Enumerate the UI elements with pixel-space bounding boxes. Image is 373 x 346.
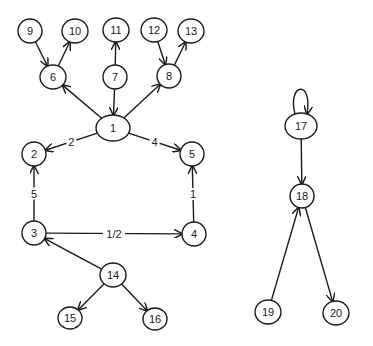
edge-17-to-18 (301, 139, 302, 184)
node-2: 2 (22, 142, 46, 166)
edge-19-to-18 (271, 208, 298, 301)
edge-14-to-3 (45, 239, 102, 269)
node-label: 15 (64, 312, 76, 324)
node-label: 11 (110, 24, 121, 36)
node-10: 10 (62, 19, 88, 43)
node-17: 17 (285, 113, 317, 139)
node-4: 4 (182, 222, 206, 246)
edge-weight-label: 1/2 (106, 228, 121, 240)
node-label: 5 (189, 148, 195, 160)
node-6: 6 (40, 65, 66, 89)
node-label: 20 (330, 307, 342, 319)
node-label: 1 (110, 122, 116, 134)
node-5: 5 (180, 142, 204, 166)
edge-1-to-6 (63, 85, 102, 118)
edge-14-to-15 (78, 284, 104, 310)
node-label: 2 (31, 148, 37, 160)
node-12: 12 (141, 18, 167, 42)
node-20: 20 (323, 301, 349, 325)
node-label: 13 (185, 25, 197, 37)
edge-18-to-20 (305, 208, 332, 302)
edge-14-to-16 (122, 284, 148, 311)
node-label: 16 (149, 313, 161, 325)
edge-label-layer: 24511/2 (29, 136, 198, 240)
node-label: 18 (296, 190, 308, 202)
node-9: 9 (18, 19, 42, 43)
node-14: 14 (100, 263, 126, 287)
node-label: 8 (166, 70, 172, 82)
node-label: 14 (107, 269, 119, 281)
edge-weight-label: 1 (190, 188, 196, 200)
node-label: 17 (295, 120, 307, 132)
node-label: 3 (31, 227, 37, 239)
edge-weight-label: 2 (68, 136, 74, 148)
edge-weight-label: 5 (31, 188, 37, 200)
node-label: 6 (50, 71, 56, 83)
node-19: 19 (255, 300, 281, 324)
node-1: 1 (96, 115, 130, 141)
node-13: 13 (178, 19, 204, 43)
edge-weight-label: 4 (152, 136, 158, 148)
node-8: 8 (157, 64, 181, 88)
edge-17-to-17 (293, 89, 307, 114)
node-label: 9 (27, 25, 33, 37)
node-11: 11 (103, 18, 129, 42)
edge-7-to-1 (114, 89, 115, 115)
node-layer: 1234567891011121314151617181920 (18, 18, 349, 330)
edge-8-to-13 (174, 42, 185, 65)
node-16: 16 (143, 308, 167, 330)
edge-12-to-8 (158, 41, 166, 64)
node-label: 10 (69, 25, 81, 37)
node-18: 18 (290, 184, 314, 208)
edge-1-to-8 (124, 84, 160, 118)
directed-graph-canvas: 24511/2 1234567891011121314151617181920 (0, 0, 373, 346)
edge-layer (34, 41, 333, 310)
node-15: 15 (58, 307, 82, 329)
node-label: 7 (112, 71, 118, 83)
edge-9-to-6 (35, 42, 47, 66)
node-label: 19 (262, 306, 274, 318)
node-label: 12 (148, 24, 160, 36)
edge-6-to-10 (58, 42, 69, 66)
node-3: 3 (22, 221, 46, 245)
node-7: 7 (103, 65, 127, 89)
node-label: 4 (191, 228, 197, 240)
